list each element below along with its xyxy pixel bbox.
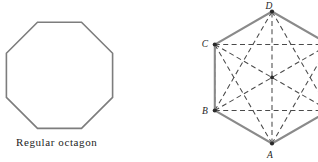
regular-hexagon-shape xyxy=(215,12,318,144)
octagon-caption: Regular octagon xyxy=(16,136,97,148)
regular-octagon-shape xyxy=(6,22,112,128)
vertex-label-A: A xyxy=(266,150,273,160)
vertex-label-C: C xyxy=(202,39,209,49)
vertex-dot-A xyxy=(270,141,274,145)
vertex-label-D: D xyxy=(265,1,273,11)
vertex-dot-C xyxy=(213,42,217,46)
geometry-figure: D C B A Regular octagon xyxy=(0,0,318,162)
diagonal-A-C xyxy=(215,45,272,144)
octagon-panel xyxy=(6,22,112,128)
hexagon-diagonals-group xyxy=(215,12,318,144)
vertex-label-B: B xyxy=(202,106,208,116)
center-intersection-dot xyxy=(270,76,274,80)
diagonal-A-right-upper xyxy=(272,45,318,144)
diagonal-D-right-lower xyxy=(272,12,318,111)
diagonal-C-right-lower xyxy=(215,45,318,111)
vertex-dot-B xyxy=(213,108,217,112)
hexagon-panel: D C B A xyxy=(202,1,318,160)
diagonal-B-right-upper xyxy=(215,45,318,111)
diagonal-B-D xyxy=(215,12,272,111)
